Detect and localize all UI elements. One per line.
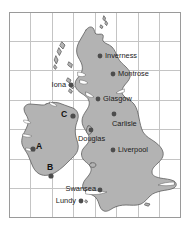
place-label: Liverpool (118, 145, 148, 154)
place-label: Lundy (56, 196, 76, 205)
place-label: Swansea (66, 184, 97, 193)
place-dot-icon (111, 148, 116, 153)
place-label: Inverness (105, 51, 137, 60)
place-dot-icon (96, 97, 101, 102)
lundy-island (85, 200, 88, 203)
area-label: C (61, 109, 67, 119)
place-label: Carlisle (112, 119, 137, 128)
area-dot-icon (30, 146, 35, 151)
place-dot-icon (69, 83, 74, 88)
place-label: Montrose (118, 69, 149, 78)
area-dot-icon (48, 173, 53, 178)
place-dot-icon (98, 188, 103, 193)
place-dot-icon (79, 199, 84, 204)
place-label: Douglas (78, 134, 105, 143)
place-dot-icon (111, 72, 116, 77)
area-label: B (47, 162, 53, 172)
place-dot-icon (89, 128, 94, 133)
place-label: Glasgow (103, 94, 132, 103)
place-dot-icon (98, 54, 103, 59)
area-label: A (36, 141, 42, 151)
place-dot-icon (112, 112, 117, 117)
area-dot-icon (70, 113, 75, 118)
map-figure: InvernessMontroseIonaGlasgowCarlisleDoug… (0, 0, 189, 230)
anglesey-island (90, 163, 97, 168)
place-label: Iona (52, 80, 67, 89)
map-canvas: InvernessMontroseIonaGlasgowCarlisleDoug… (0, 0, 189, 230)
